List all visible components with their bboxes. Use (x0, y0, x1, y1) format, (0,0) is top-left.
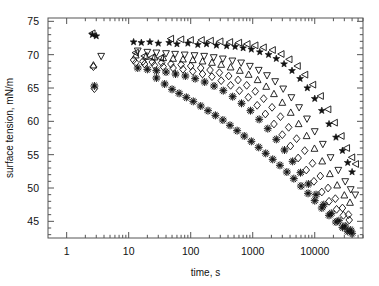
y-axis-title: surface tension, mN/m (4, 78, 15, 178)
y-tick-label: 45 (27, 215, 39, 227)
y-tick-label: 75 (27, 15, 39, 27)
x-tick-label: 100 (182, 245, 200, 257)
y-tick-label: 50 (27, 182, 39, 194)
y-tick-label: 60 (27, 115, 39, 127)
plot-frame (48, 18, 363, 238)
x-tick-label: 10000 (300, 245, 329, 257)
chart-root: 11010010001000045505560657075time, ssurf… (0, 0, 379, 286)
series-filled-star (89, 31, 356, 175)
x-tick-label: 1 (64, 245, 70, 257)
y-tick-label: 70 (27, 49, 39, 61)
series-asterisk-upper (90, 64, 354, 234)
x-axis-title: time, s (191, 267, 220, 278)
x-tick-label: 1000 (241, 245, 265, 257)
series-open-left-triangle (89, 30, 359, 167)
y-tick-label: 65 (27, 82, 39, 94)
y-tick-label: 55 (27, 149, 39, 161)
surface-tension-scatter-plot: 11010010001000045505560657075time, ssurf… (0, 0, 379, 286)
series-asterisk-lower (152, 74, 356, 237)
x-tick-label: 10 (123, 245, 135, 257)
